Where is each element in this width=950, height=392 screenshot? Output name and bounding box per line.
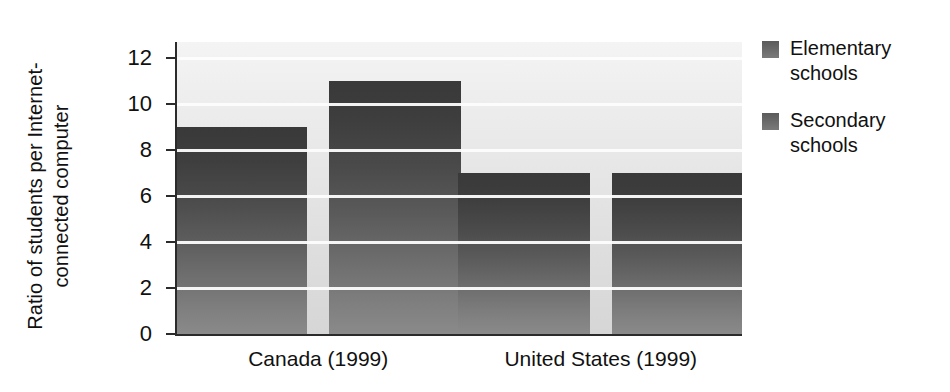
legend-swatch-icon [762, 113, 779, 130]
gridline [177, 287, 742, 290]
y-axis-tick-label: 6 [140, 185, 152, 207]
y-axis-tick-mark [166, 241, 176, 243]
y-axis-tick-label: 12 [128, 47, 152, 69]
y-axis-tick-label: 10 [128, 93, 152, 115]
y-axis-tick-mark [166, 195, 176, 197]
y-axis-tick-mark [166, 149, 176, 151]
gridline [177, 241, 742, 244]
legend-swatch-icon [762, 41, 779, 58]
bar [329, 81, 461, 334]
y-axis-tick-mark [166, 103, 176, 105]
x-axis-tick-label: United States (1999) [504, 344, 697, 374]
y-axis-tick-mark [166, 57, 176, 59]
y-axis-tick-label: 8 [140, 139, 152, 161]
y-axis-tick-label: 4 [140, 231, 152, 253]
x-axis-tick-labels: Canada (1999)United States (1999) [177, 344, 742, 384]
legend-item[interactable]: Elementaryschools [762, 36, 947, 86]
gridline [177, 149, 742, 152]
legend-label-line: Secondary [790, 108, 886, 133]
y-axis-title-line-2: connected computer [48, 31, 74, 361]
y-axis-title: Ratio of students per Internet- connecte… [0, 0, 96, 392]
gridline [177, 57, 742, 60]
y-axis-tick-mark [166, 333, 176, 335]
legend-label-line: schools [790, 133, 886, 158]
gridline [177, 103, 742, 106]
bar-chart-figure: Ratio of students per Internet- connecte… [0, 0, 950, 392]
y-axis-tick-mark [166, 287, 176, 289]
y-axis-tick-labels: 024681012 [108, 42, 160, 334]
bars-layer [177, 42, 742, 334]
legend-label: Elementaryschools [790, 36, 891, 86]
x-axis-tick-label: Canada (1999) [248, 344, 388, 374]
gridline [177, 195, 742, 198]
legend-label-line: Elementary [790, 36, 891, 61]
legend-label-line: schools [790, 61, 891, 86]
legend: ElementaryschoolsSecondaryschools [762, 36, 947, 180]
plot-area [177, 42, 742, 334]
legend-item[interactable]: Secondaryschools [762, 108, 947, 158]
y-axis-tick-label: 0 [140, 323, 152, 345]
x-axis-line [175, 334, 742, 336]
legend-label: Secondaryschools [790, 108, 886, 158]
y-axis-title-line-1: Ratio of students per Internet- [22, 31, 48, 361]
y-axis-tick-label: 2 [140, 277, 152, 299]
bar [177, 127, 307, 334]
